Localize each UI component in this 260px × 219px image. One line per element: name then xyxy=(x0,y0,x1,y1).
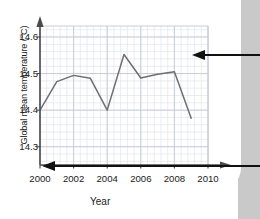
line-chart: 14.314.414.514.6 20002002200420062008201… xyxy=(0,0,260,219)
annotation-arrow-bottom-head xyxy=(42,161,55,171)
annotation-arrows xyxy=(0,0,260,219)
screenshot-root: 14.314.414.514.6 20002002200420062008201… xyxy=(0,0,260,219)
annotation-arrow-right-head xyxy=(192,50,205,60)
